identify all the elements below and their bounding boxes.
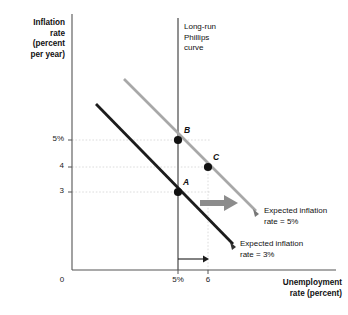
data-point-label-a: A: [183, 177, 189, 188]
x-tick-label-5pct: 5%: [167, 275, 189, 286]
expected-inflation-5pct-label: Expected inflation rate = 5%: [264, 206, 346, 227]
y-tick-label-5pct: 5%: [46, 134, 64, 145]
short-run-phillips-curve-3pct-line: [96, 104, 233, 244]
expected-inflation-3pct-label: Expected inflation rate = 3%: [240, 239, 326, 260]
tick-marks: [68, 140, 208, 274]
long-run-phillips-curve-label: Long-run Phillips curve: [184, 22, 244, 54]
x-axis-title: Unemployment rate (percent): [246, 278, 342, 299]
data-point-a: [174, 188, 182, 196]
y-tick-label-3: 3: [46, 186, 64, 197]
y-tick-label-4: 4: [46, 161, 64, 172]
gridlines: [72, 140, 210, 270]
data-point-label-c: C: [213, 152, 219, 163]
data-point-label-b: B: [184, 125, 190, 136]
origin-label: 0: [56, 275, 68, 286]
unemployment-increase-arrow: [178, 256, 209, 263]
data-point-b: [174, 136, 182, 144]
data-points: [174, 136, 212, 196]
x-tick-label-6: 6: [200, 275, 216, 286]
y-axis-title: Inflation rate (percent per year): [8, 18, 65, 60]
data-point-c: [204, 163, 212, 171]
shift-arrow: [200, 195, 238, 211]
phillips-curve-figure: Inflation rate (percent per year) 5% 4 3…: [0, 0, 348, 315]
short-run-phillips-curve-5pct-line: [124, 79, 256, 211]
